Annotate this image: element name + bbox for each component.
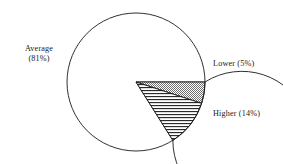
slice-label-lower: Lower (5%) (213, 59, 254, 69)
slice-label-average: Average(81%) (8, 44, 70, 64)
slice-label-higher: Higher (14%) (213, 109, 260, 119)
pie-chart-figure: Average(81%) Lower (5%) Higher (14%) (0, 0, 283, 164)
slice-label-average-line2: (81%) (28, 54, 49, 63)
slice-label-average-line1: Average (25, 44, 53, 53)
pie-chart-graphic (0, 0, 283, 164)
